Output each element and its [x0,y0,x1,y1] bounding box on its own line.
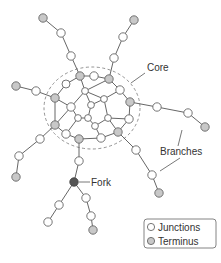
terminus-node [89,226,97,234]
junction-node [105,115,112,122]
junction-node [119,33,127,41]
network-diagram: Core Branches Fork Junctions Terminus [0,0,221,263]
core-leader-line [131,73,145,83]
terminus-node [12,173,20,181]
branches-leader-line-1 [178,130,182,146]
edges [16,18,205,230]
terminus-node [12,82,20,90]
terminus-node [105,75,113,83]
branches-label: Branches [160,146,202,157]
junction-node [44,218,52,226]
junction-node [82,88,89,95]
terminus-node [39,14,47,22]
terminus-node [130,16,138,24]
terminus-node [114,128,122,136]
junction-node [97,134,105,142]
junction-node [88,102,95,109]
junction-node [15,152,23,160]
terminus-node [51,94,59,102]
junction-node [32,87,40,95]
legend: Junctions Terminus [144,219,216,248]
junction-node [125,115,133,123]
junction-node [67,103,75,111]
fork-node [70,178,78,186]
core-label: Core [147,62,169,73]
junction-node [132,146,140,154]
terminus-node [51,121,59,129]
junction-node [184,109,192,117]
junction-node [87,212,95,220]
fork-label: Fork [91,177,112,188]
junction-legend-icon [147,223,154,230]
junction-node [62,130,70,138]
junction-node [85,115,92,122]
terminus-node [76,72,84,80]
junction-node [67,52,75,60]
junction-node [57,29,65,37]
junction-node [82,194,90,202]
junction-node [116,86,124,94]
core-small-junctions [62,80,70,88]
terminus-node [126,98,134,106]
junction-node [75,115,82,122]
junction-node [110,54,118,62]
junction-node [92,123,99,130]
terminus-node [155,189,163,197]
terminus-legend-icon [147,237,154,244]
branches-leader-line-2 [160,158,180,171]
junction-node [90,72,98,80]
junction-node [62,80,70,88]
terminus-node [75,135,83,143]
terminus-node [201,123,209,131]
nodes [12,14,209,234]
junction-node [148,171,156,179]
junction-node [55,201,63,209]
legend-junctions-label: Junctions [158,222,200,233]
junction-node [36,135,44,143]
junction-node [75,157,83,165]
legend-terminus-label: Terminus [158,236,199,247]
junction-node [101,96,108,103]
junction-node [153,103,161,111]
